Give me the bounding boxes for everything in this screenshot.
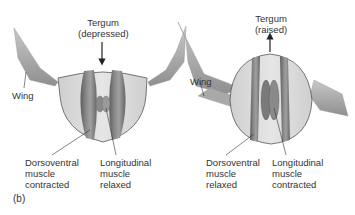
left-wing-label: Wing (12, 90, 34, 101)
right-dv-line2: muscle (206, 168, 260, 179)
insect-flight-muscle-diagram: Tergum (depressed) Wing Dorsoventral mus… (0, 0, 355, 215)
left-dorsoventral-label: Dorsoventral muscle contracted (25, 157, 79, 190)
left-wing-right (148, 26, 186, 86)
left-dv-leader (52, 130, 90, 155)
left-wing-left (14, 28, 58, 86)
right-long-muscle-b (269, 80, 279, 120)
right-dv-line1: Dorsoventral (206, 157, 260, 168)
left-long-line2: muscle (100, 168, 151, 179)
right-long-line2: muscle (272, 168, 323, 179)
right-dorsoventral-label: Dorsoventral muscle relaxed (206, 157, 260, 190)
left-dv-line3: contracted (25, 179, 79, 190)
left-longitudinal-label: Longitudinal muscle relaxed (100, 157, 151, 190)
left-long-muscle-b (102, 96, 110, 112)
left-dv-line2: muscle (25, 168, 79, 179)
left-panel (14, 26, 186, 155)
left-tergum-line1: Tergum (78, 17, 128, 28)
left-tergum-label: Tergum (depressed) (78, 17, 128, 39)
left-long-line1: Longitudinal (100, 157, 151, 168)
panel-label: (b) (13, 193, 25, 204)
right-long-line1: Longitudinal (272, 157, 323, 168)
right-tergum-line1: Tergum (246, 13, 296, 24)
right-wing-right (310, 80, 348, 116)
right-panel (178, 22, 348, 155)
right-long-line3: contracted (272, 179, 323, 190)
right-tergum-label: Tergum (raised) (246, 13, 296, 35)
right-dv-line3: relaxed (206, 179, 260, 190)
right-wing-label: Wing (190, 76, 212, 87)
left-tergum-line2: (depressed) (78, 28, 128, 39)
left-wing-leader (24, 72, 26, 88)
right-tergum-line2: (raised) (246, 24, 296, 35)
left-long-line3: relaxed (100, 179, 151, 190)
right-longitudinal-label: Longitudinal muscle contracted (272, 157, 323, 190)
right-dv-leader (226, 134, 254, 155)
left-dv-line1: Dorsoventral (25, 157, 79, 168)
